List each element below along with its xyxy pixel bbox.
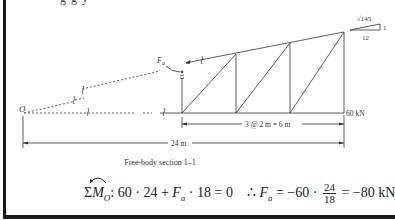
slope-run-label: 12 [362,34,370,42]
diagonal-3 [290,32,344,113]
dashed-top-line-2 [82,71,160,89]
fraction: 2418 [323,182,336,205]
top-chord [200,32,344,60]
force-fa-label: Fa [156,56,165,66]
moment-equation: ΣMO: 60 · 24 + Fa · 18 = 0 ∴ Fa = −60 · … [84,182,395,205]
panel-dimension-label: 3 @ 2 m = 6 m [245,120,290,129]
diagonal-1 [182,54,236,113]
slope-rise-label: 1 [383,24,387,32]
load-label: 60 kN [346,109,365,118]
top-chord-force-arrow [186,61,190,64]
figure-caption: Free-body section 1–1 [0,158,320,167]
point-o-label: O [19,104,26,114]
dashed-top-line-1 [24,102,72,113]
moment-arrow-icon [88,174,108,184]
slope-hypotenuse-label: √145 [357,15,372,23]
total-dimension-label: 24 m [171,139,186,148]
slope-triangle [350,24,380,30]
diagonal-2 [236,43,290,113]
